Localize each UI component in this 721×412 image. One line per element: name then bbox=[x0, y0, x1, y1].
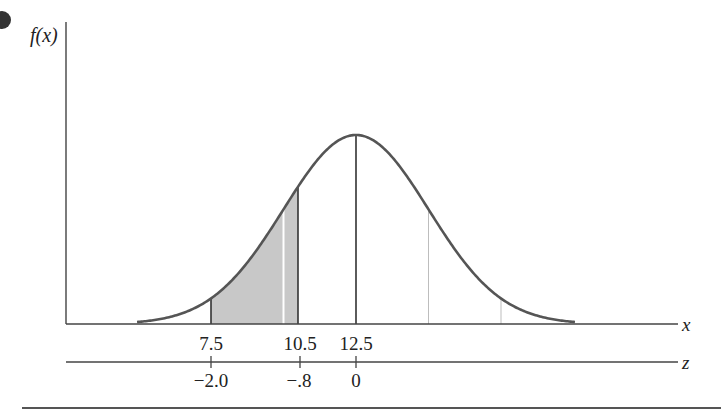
x-tick-label: 10.5 bbox=[283, 333, 316, 354]
z-tick-label: 0 bbox=[351, 370, 361, 391]
z-axis-label: z bbox=[681, 352, 690, 373]
normal-distribution-figure: f(x) x z 7.5 10.5 12.5 −2.0 −.8 0 bbox=[0, 0, 721, 412]
x-tick-label: 12.5 bbox=[339, 333, 372, 354]
z-tick-label: −.8 bbox=[287, 370, 312, 391]
y-axis-label: f(x) bbox=[30, 24, 58, 47]
x-tick-label: 7.5 bbox=[199, 333, 223, 354]
x-axis-label: x bbox=[681, 314, 691, 335]
bullet-dot bbox=[0, 11, 11, 29]
z-tick-label: −2.0 bbox=[194, 370, 228, 391]
